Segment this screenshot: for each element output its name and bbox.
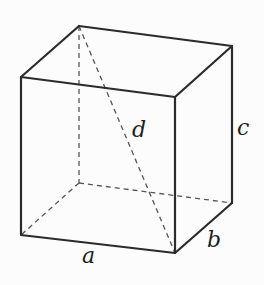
label-c: c	[237, 117, 249, 139]
space-diagonal-d	[79, 26, 175, 253]
edge-top-left-depth	[21, 26, 79, 77]
label-b: b	[207, 229, 221, 251]
hidden-edge-back-bottom	[79, 183, 232, 203]
label-d: d	[132, 119, 146, 141]
edge-top-right-depth	[175, 46, 232, 97]
box-diagram: d c b a	[0, 0, 264, 285]
edge-bottom-right-depth	[175, 203, 232, 253]
edge-top-back	[79, 26, 232, 46]
front-face	[21, 77, 175, 253]
hidden-edge-left-bottom	[21, 183, 79, 235]
label-a: a	[82, 245, 95, 267]
box-wireframe	[0, 0, 264, 285]
